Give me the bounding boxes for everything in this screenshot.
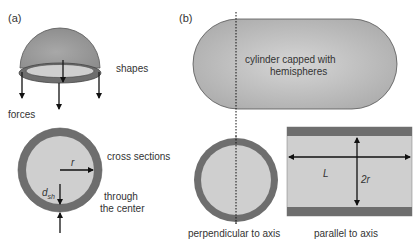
shapes-label: shapes <box>116 63 148 74</box>
perpendicular-label: perpendicular to axis <box>188 228 280 239</box>
radius-label: r <box>71 157 74 168</box>
thickness-subscript: sh <box>48 193 55 200</box>
length-label: L <box>323 168 329 179</box>
diagram-canvas <box>0 0 419 245</box>
parallel-section <box>287 127 412 216</box>
parallel-label: parallel to axis <box>314 228 378 239</box>
panel-b-label: (b) <box>179 12 192 24</box>
forces-label: forces <box>8 109 35 120</box>
diameter-label: 2r <box>361 174 370 185</box>
through-label: through <box>104 191 138 202</box>
hemisphere-shape <box>19 28 101 83</box>
thickness-label: dsh <box>42 187 55 202</box>
capsule-label-line2: hemispheres <box>270 66 327 77</box>
cross-sections-label: cross sections <box>107 151 170 162</box>
panel-a-label: (a) <box>8 12 21 24</box>
the-center-label: the center <box>100 203 144 214</box>
capsule-label-line1: cylinder capped with <box>245 54 336 65</box>
